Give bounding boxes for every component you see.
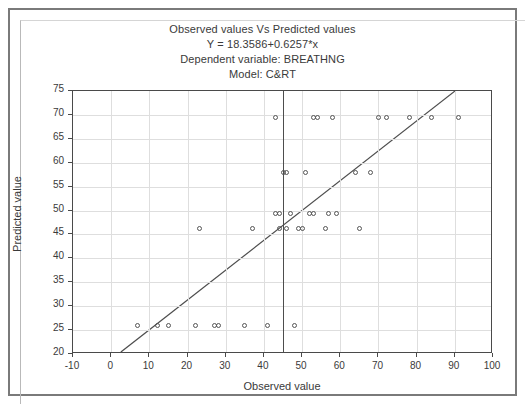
y-axis-tick-label: 55 [36, 179, 64, 190]
fit-line-layer [73, 91, 491, 352]
plot-area [72, 90, 492, 353]
scatter-point [315, 115, 320, 120]
y-axis-tick-label: 60 [36, 155, 64, 166]
x-axis-tick [339, 353, 340, 357]
y-axis-tick [68, 305, 72, 306]
figure-screenshot: Observed values Vs Predicted values Y = … [0, 0, 525, 411]
y-gridline [73, 163, 491, 164]
y-axis-tick [68, 138, 72, 139]
x-axis-tick [225, 353, 226, 357]
x-axis-tick [492, 353, 493, 357]
vertical-reference-line [283, 91, 284, 352]
x-axis-tick-label: 30 [205, 360, 245, 371]
y-gridline [73, 139, 491, 140]
y-gridline [73, 115, 491, 116]
y-axis-tick-label: 45 [36, 226, 64, 237]
chart-subtitle-model: Model: C&RT [0, 67, 525, 82]
y-axis-title: Predicted value [11, 134, 23, 294]
scatter-point [330, 115, 335, 120]
x-axis-tick-label: 70 [357, 360, 397, 371]
y-axis-tick [68, 329, 72, 330]
x-axis-title: Observed value [72, 380, 492, 392]
x-axis-tick-label: 40 [243, 360, 283, 371]
scatter-point [292, 323, 297, 328]
x-axis-tick-label: 80 [396, 360, 436, 371]
y-axis-tick-label: 65 [36, 131, 64, 142]
y-axis-tick [68, 257, 72, 258]
y-gridline [73, 187, 491, 188]
x-gridline [226, 91, 227, 352]
y-gridline [73, 258, 491, 259]
y-axis-tick-label: 35 [36, 274, 64, 285]
x-gridline [149, 91, 150, 352]
y-axis-tick [68, 90, 72, 91]
y-axis-tick-label: 50 [36, 203, 64, 214]
chart-title: Observed values Vs Predicted values [0, 22, 525, 37]
x-axis-tick [148, 353, 149, 357]
x-gridline [378, 91, 379, 352]
x-gridline [111, 91, 112, 352]
x-axis-tick [72, 353, 73, 357]
scatter-point [456, 115, 461, 120]
x-axis-tick [377, 353, 378, 357]
y-axis-tick [68, 186, 72, 187]
y-axis-tick [68, 281, 72, 282]
scatter-point [277, 211, 282, 216]
chart-subtitle-equation: Y = 18.3586+0.6257*x [0, 37, 525, 52]
x-axis-tick-label: 50 [281, 360, 321, 371]
y-axis-tick-label: 25 [36, 322, 64, 333]
x-gridline [302, 91, 303, 352]
x-axis-tick-label: 90 [434, 360, 474, 371]
x-gridline [264, 91, 265, 352]
x-axis-tick-label: -10 [52, 360, 92, 371]
scatter-point [155, 323, 160, 328]
scatter-point [197, 226, 202, 231]
y-gridline [73, 330, 491, 331]
x-axis-tick-label: 60 [319, 360, 359, 371]
chart-title-block: Observed values Vs Predicted values Y = … [0, 22, 525, 82]
scatter-point [300, 226, 305, 231]
scatter-point [353, 170, 358, 175]
y-axis-tick-label: 70 [36, 107, 64, 118]
x-axis-tick-label: 20 [167, 360, 207, 371]
x-axis-tick-label: 100 [472, 360, 512, 371]
y-gridline [73, 211, 491, 212]
x-axis-tick [416, 353, 417, 357]
scatter-point [334, 211, 339, 216]
scatter-point [384, 115, 389, 120]
scatter-point [216, 323, 221, 328]
scatter-point [407, 115, 412, 120]
x-axis-tick-label: 0 [90, 360, 130, 371]
y-gridline [73, 306, 491, 307]
y-gridline [73, 234, 491, 235]
x-axis-tick [110, 353, 111, 357]
chart-subtitle-dependent-variable: Dependent variable: BREATHNG [0, 52, 525, 67]
x-gridline [455, 91, 456, 352]
y-axis-tick [68, 353, 72, 354]
scatter-point [323, 226, 328, 231]
y-axis-tick-label: 40 [36, 250, 64, 261]
x-axis-tick [301, 353, 302, 357]
y-axis-tick [68, 233, 72, 234]
x-gridline [417, 91, 418, 352]
scatter-point [273, 115, 278, 120]
x-gridline [340, 91, 341, 352]
x-axis-tick [187, 353, 188, 357]
x-axis-tick-label: 10 [128, 360, 168, 371]
scatter-point [166, 323, 171, 328]
scatter-point [376, 115, 381, 120]
y-axis-tick-label: 20 [36, 346, 64, 357]
y-axis-tick [68, 162, 72, 163]
y-axis-tick-label: 75 [36, 83, 64, 94]
y-axis-tick [68, 114, 72, 115]
x-axis-tick [454, 353, 455, 357]
x-axis-tick [263, 353, 264, 357]
x-gridline [188, 91, 189, 352]
scatter-point [311, 211, 316, 216]
y-gridline [73, 282, 491, 283]
regression-fit-line [121, 91, 455, 352]
scatter-point [277, 226, 282, 231]
y-axis-tick [68, 210, 72, 211]
y-axis-tick-label: 30 [36, 298, 64, 309]
scatter-point [193, 323, 198, 328]
